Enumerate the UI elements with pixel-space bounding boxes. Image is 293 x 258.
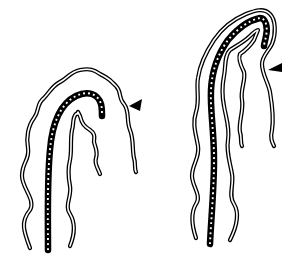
endoscope-colon-illustration — [0, 0, 293, 258]
left-panel — [22, 69, 142, 250]
left-arrowhead-icon — [129, 99, 142, 111]
right-bowel-inner-wall — [223, 30, 259, 240]
left-bowel-inner-wall — [68, 112, 100, 246]
right-arrowhead-icon — [268, 63, 282, 72]
diagram-canvas — [0, 0, 293, 258]
right-panel — [192, 10, 282, 244]
